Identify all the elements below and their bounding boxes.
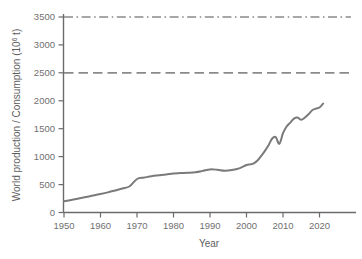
y-tick-label-2000: 2000 [34, 95, 55, 106]
x-tick-labels: 1950 1960 1970 1980 1990 2000 2010 2020 [53, 220, 330, 231]
y-axis-title-tail: t) [11, 29, 22, 38]
production-consumption-line [64, 104, 323, 202]
y-axis-title-main: World production / Consumption (10 [11, 41, 22, 201]
axes-group [64, 14, 357, 213]
x-tick-label-2000: 2000 [236, 220, 257, 231]
x-tick-label-1950: 1950 [53, 220, 74, 231]
y-axis-title: World production / Consumption (106 t) [11, 29, 22, 201]
y-tick-label-2500: 2500 [34, 67, 55, 78]
y-tick-labels: 0 500 1000 1500 2000 2500 3000 3500 [34, 11, 55, 218]
y-tick-label-3500: 3500 [34, 11, 55, 22]
y-axis-title-group: World production / Consumption (106 t) [11, 29, 22, 201]
x-tick-label-1980: 1980 [163, 220, 184, 231]
x-axis-title: Year [199, 238, 220, 249]
y-tick-label-500: 500 [39, 179, 55, 190]
y-tick-label-1500: 1500 [34, 123, 55, 134]
y-tick-label-0: 0 [50, 207, 55, 218]
y-tick-label-1000: 1000 [34, 151, 55, 162]
y-tick-marks [59, 17, 64, 213]
x-tick-marks [64, 213, 320, 218]
line-chart-svg: 0 500 1000 1500 2000 2500 3000 3500 1950… [0, 0, 362, 259]
chart-figure: 0 500 1000 1500 2000 2500 3000 3500 1950… [0, 0, 362, 259]
x-tick-label-2010: 2010 [272, 220, 293, 231]
x-tick-label-1970: 1970 [126, 220, 147, 231]
x-tick-label-1960: 1960 [90, 220, 111, 231]
x-tick-label-2020: 2020 [309, 220, 330, 231]
x-tick-label-1990: 1990 [199, 220, 220, 231]
y-tick-label-3000: 3000 [34, 39, 55, 50]
